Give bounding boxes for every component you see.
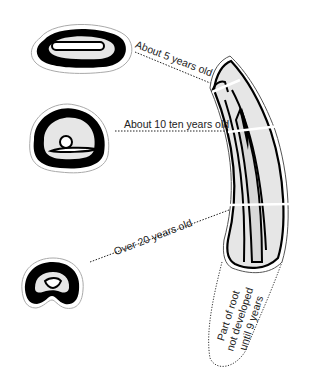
label-about-10-years: About 10 ten years old bbox=[124, 118, 229, 130]
cross-section-5-years bbox=[31, 24, 131, 73]
cross-section-20-years bbox=[22, 258, 83, 308]
cross-section-10-years bbox=[30, 104, 109, 173]
